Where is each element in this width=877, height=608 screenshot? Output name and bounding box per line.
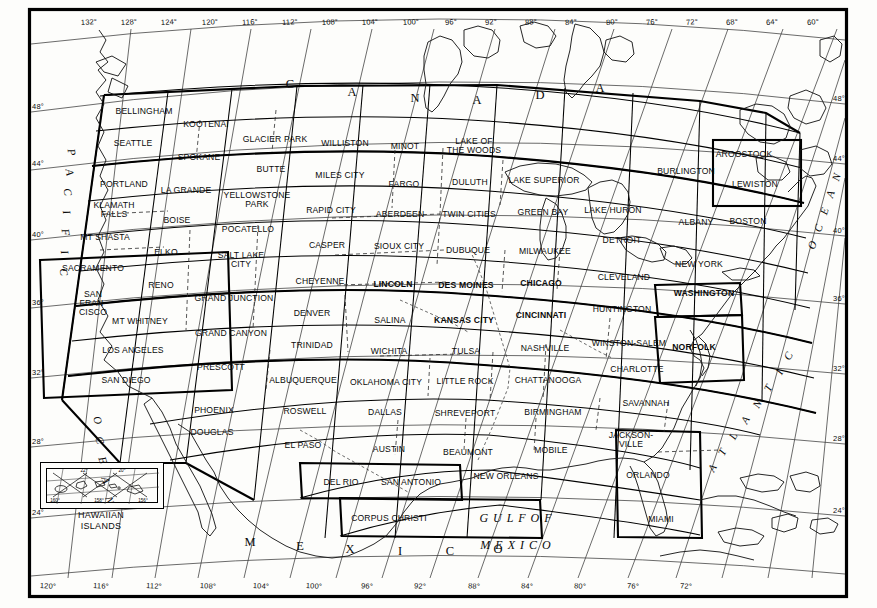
chart-cell-label[interactable]: SACRAMENTO — [62, 263, 124, 273]
chart-name-line1: ALBANY — [679, 217, 714, 227]
hawaii-tick-bottom: 158° — [94, 498, 104, 503]
chart-cell-label[interactable]: LEWISTON — [732, 179, 778, 189]
chart-cell-label[interactable]: SALINA — [374, 315, 405, 325]
chart-cell-label[interactable]: LAKE SUPERIOR — [508, 175, 579, 185]
chart-cell-label[interactable]: MINOT — [391, 141, 419, 151]
chart-cell-label[interactable]: ELKO — [154, 247, 178, 257]
chart-cell-label[interactable]: ROSWELL — [283, 406, 326, 416]
longitude-label-bottom: 76° — [627, 581, 639, 591]
chart-cell-label[interactable]: HUNTINGTON — [593, 304, 652, 314]
region-label-mexico: E — [296, 539, 304, 554]
chart-cell-label[interactable]: RENO — [148, 280, 173, 290]
chart-cell-label[interactable]: AUSTIN — [373, 444, 405, 454]
chart-cell-label[interactable]: ALBUQUERQUE — [269, 375, 337, 385]
chart-cell-label[interactable]: GLACIER PARK — [243, 134, 308, 144]
chart-cell-label[interactable]: SPOKANE — [178, 152, 221, 162]
chart-cell-label[interactable]: GRAND CANYON — [195, 328, 267, 338]
chart-cell-label[interactable]: BOISE — [163, 215, 190, 225]
chart-cell-label[interactable]: MOBILE — [534, 445, 567, 455]
chart-cell-label[interactable]: CINCINNATI — [516, 310, 567, 320]
chart-cell-label[interactable]: SEATTLE — [114, 138, 153, 148]
chart-name-line1: SEATTLE — [114, 138, 153, 148]
chart-name-line1: LA GRANDE — [161, 185, 212, 195]
chart-cell-label[interactable]: DES MOINES — [438, 280, 493, 290]
chart-cell-label[interactable]: SIOUX CITY — [374, 241, 424, 251]
chart-cell-label[interactable]: NEW ORLEANS — [473, 471, 538, 481]
chart-cell-label[interactable]: BOSTON — [729, 216, 766, 226]
chart-cell-label[interactable]: DENVER — [294, 308, 331, 318]
chart-cell-label[interactable]: CORPUS CHRISTI — [351, 513, 427, 523]
chart-cell-label[interactable]: LAKE HURON — [584, 205, 641, 215]
chart-cell-label[interactable]: GREEN BAY — [518, 207, 569, 217]
chart-index-map: 132°128°124°120°116°112°108°104°100°96°9… — [0, 0, 877, 608]
chart-cell-label[interactable]: NORFOLK — [672, 342, 716, 352]
chart-cell-label[interactable]: MILWAUKEE — [519, 246, 571, 256]
chart-name-line1: RENO — [148, 280, 173, 290]
chart-cell-label[interactable]: CHARLOTTE — [610, 364, 663, 374]
chart-cell-label[interactable]: KOOTENAI — [183, 119, 229, 129]
chart-cell-label[interactable]: SAN DIEGO — [101, 375, 150, 385]
chart-name-line1: ALBUQUERQUE — [269, 375, 337, 385]
chart-cell-label[interactable]: SALT LAKECITY — [218, 250, 264, 269]
chart-cell-label[interactable]: NEW YORK — [675, 259, 723, 269]
chart-cell-label[interactable]: ALBANY — [679, 217, 714, 227]
chart-cell-label[interactable]: GRAND JUNCTION — [195, 293, 274, 303]
chart-cell-label[interactable]: CASPER — [309, 240, 345, 250]
chart-cell-label[interactable]: LOS ANGELES — [102, 345, 163, 355]
chart-cell-label[interactable]: POCATELLO — [222, 224, 274, 234]
chart-cell-label[interactable]: BIRMINGHAM — [524, 407, 581, 417]
chart-cell-label[interactable]: WILLISTON — [321, 138, 369, 148]
chart-cell-label[interactable]: KANSAS CITY — [434, 315, 494, 325]
chart-cell-label[interactable]: MILES CITY — [315, 170, 364, 180]
chart-cell-label[interactable]: TWIN CITIES — [442, 209, 496, 219]
chart-cell-label[interactable]: CHICAGO — [520, 278, 562, 288]
chart-cell-label[interactable]: WASHINGTON — [674, 288, 735, 298]
chart-cell-label[interactable]: PHOENIX — [194, 405, 234, 415]
chart-cell-label[interactable]: LINCOLN — [373, 279, 412, 289]
chart-cell-label[interactable]: DALLAS — [368, 407, 402, 417]
chart-cell-label[interactable]: DUBUQUE — [446, 245, 490, 255]
chart-cell-label[interactable]: ORLANDO — [626, 470, 670, 480]
chart-cell-label[interactable]: CHATTANOOGA — [515, 375, 582, 385]
longitude-label-top: 100° — [402, 17, 419, 27]
chart-cell-label[interactable]: BEAUMONT — [443, 447, 493, 457]
chart-cell-label[interactable]: SAN ANTONIO — [381, 477, 441, 487]
chart-cell-label[interactable]: NASHVILLE — [521, 343, 570, 353]
chart-cell-label[interactable]: MT SHASTA — [80, 232, 130, 242]
chart-cell-label[interactable]: TULSA — [452, 346, 480, 356]
chart-cell-label[interactable]: AROOSTOOK — [716, 149, 773, 159]
chart-cell-label[interactable]: OKLAHOMA CITY — [350, 377, 422, 387]
longitude-label-top: 68° — [726, 17, 739, 27]
chart-cell-label[interactable]: DULUTH — [452, 177, 488, 187]
chart-cell-label[interactable]: TRINIDAD — [291, 340, 333, 350]
chart-cell-label[interactable]: CLEVELAND — [598, 272, 650, 282]
chart-name-line1: POCATELLO — [222, 224, 274, 234]
chart-cell-label[interactable]: SANFRAN-CISCO — [79, 289, 107, 317]
chart-cell-label[interactable]: PRESCOTT — [197, 362, 245, 372]
chart-cell-label[interactable]: DOUGLAS — [190, 427, 233, 437]
chart-cell-label[interactable]: DETROIT — [603, 235, 642, 245]
chart-cell-label[interactable]: PORTLAND — [100, 179, 148, 189]
chart-cell-label[interactable]: MT WHITNEY — [112, 316, 168, 326]
chart-cell-label[interactable]: FARGO — [389, 179, 420, 189]
chart-cell-label[interactable]: SHREVEPORT — [435, 408, 496, 418]
chart-cell-label[interactable]: CHEYENNE — [296, 276, 345, 286]
chart-cell-label[interactable]: LA GRANDE — [161, 185, 212, 195]
chart-cell-label[interactable]: WICHITA — [371, 346, 408, 356]
chart-cell-label[interactable]: WINSTON-SALEM — [592, 338, 666, 348]
chart-cell-label[interactable]: BURLINGTON — [657, 166, 715, 176]
chart-cell-label[interactable]: BELLINGHAM — [116, 106, 173, 116]
chart-cell-label[interactable]: ABERDEEN — [376, 209, 424, 219]
chart-cell-label[interactable]: DEL RIO — [323, 477, 358, 487]
chart-cell-label[interactable]: SAVANNAH — [622, 398, 669, 408]
chart-cell-label[interactable]: LITTLE ROCK — [436, 376, 493, 386]
chart-cell-label[interactable]: LAKE OFTHE WOODS — [447, 136, 501, 155]
chart-cell-label[interactable]: EL PASO — [285, 440, 322, 450]
chart-cell-label[interactable]: KLAMATHFALLS — [93, 200, 134, 219]
chart-cell-label[interactable]: MIAMI — [648, 514, 674, 524]
chart-cell-label[interactable]: RAPID CITY — [306, 205, 356, 215]
chart-cell-label[interactable]: YELLOWSTONEPARK — [224, 190, 291, 209]
chart-name-line2: PARK — [224, 199, 291, 209]
chart-cell-label[interactable]: BUTTE — [257, 164, 286, 174]
chart-cell-label[interactable]: JACKSON-VILLE — [609, 430, 654, 449]
